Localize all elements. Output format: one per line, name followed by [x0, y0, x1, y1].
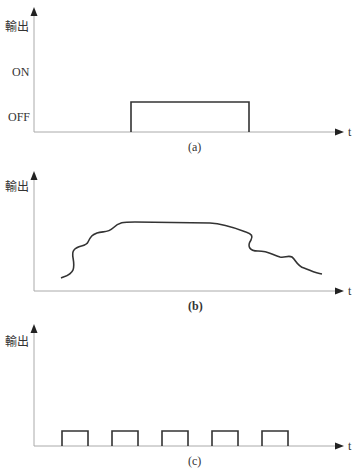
pulse-4: [212, 431, 238, 446]
y-axis-label: 輸出: [5, 334, 29, 349]
pulse-1: [62, 431, 88, 446]
caption-c: (c): [188, 454, 201, 468]
y-axis-arrow-icon: [31, 324, 38, 333]
pulse-5: [262, 431, 288, 446]
output-curve: [61, 222, 322, 278]
x-axis-arrow-icon: [335, 129, 344, 136]
x-axis-label: t: [348, 125, 352, 139]
pulse-2: [112, 431, 138, 446]
y-tick-off: OFF: [8, 110, 30, 124]
y-axis-arrow-icon: [31, 7, 38, 16]
caption-a: (a): [188, 140, 201, 154]
pulse-3: [162, 431, 188, 446]
figure-canvas: t 輸出 ON OFF (a) t 輸出 (b) t 輸出 (c): [0, 0, 355, 473]
diagram-a: t 輸出 ON OFF (a): [5, 7, 352, 154]
x-axis-arrow-icon: [335, 288, 344, 295]
y-axis-arrow-icon: [31, 171, 38, 180]
y-axis-label: 輸出: [5, 19, 29, 34]
diagram-c: t 輸出 (c): [5, 324, 352, 468]
pulse-signal: [131, 102, 249, 132]
caption-b: (b): [188, 299, 203, 313]
y-axis-label: 輸出: [5, 179, 29, 194]
y-tick-on: ON: [12, 65, 30, 79]
x-axis-label: t: [348, 439, 352, 453]
diagram-b: t 輸出 (b): [5, 171, 352, 313]
x-axis-label: t: [348, 284, 352, 298]
x-axis-arrow-icon: [335, 443, 344, 450]
